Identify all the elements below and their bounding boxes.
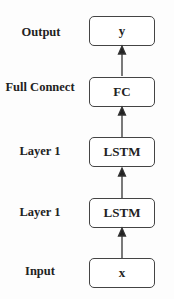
- arrows: [0, 0, 174, 299]
- arrowhead-icon: [119, 168, 126, 176]
- arrowhead-icon: [119, 107, 126, 115]
- arrowhead-icon: [119, 228, 126, 236]
- arrowhead-icon: [119, 46, 126, 54]
